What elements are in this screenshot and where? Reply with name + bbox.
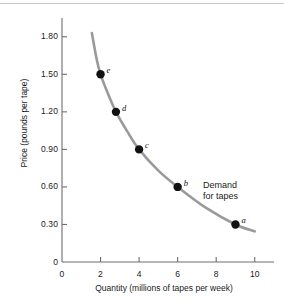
y-tick-label: 1.80 (14, 31, 58, 41)
x-tick-label: 8 (201, 269, 231, 279)
y-ticks-group (62, 37, 67, 225)
data-point-marker (231, 220, 239, 228)
data-point-label-b: b (184, 178, 188, 188)
demand-curve-label: Demand for tapes (203, 180, 238, 202)
demand-curve-figure: 00.300.600.901.201.501.80 0246810 abcde … (0, 0, 284, 301)
data-point-marker (135, 145, 143, 153)
data-point-marker (112, 108, 120, 116)
data-points-group (96, 70, 239, 229)
x-tick-label: 10 (240, 269, 270, 279)
data-point-label-d: d (122, 103, 126, 113)
demand-curve-label-line1: Demand (203, 180, 238, 191)
y-tick-label: 0 (14, 257, 58, 267)
x-tick-label: 0 (47, 269, 77, 279)
x-axis-title: Quantity (millions of tapes per week) (48, 283, 280, 293)
x-tick-label: 4 (124, 269, 154, 279)
data-point-label-a: a (241, 215, 245, 225)
data-point-marker (173, 183, 181, 191)
data-point-marker (96, 70, 104, 78)
demand-curve-label-line2: for tapes (203, 191, 238, 202)
data-point-label-c: c (145, 140, 149, 150)
x-tick-label: 6 (163, 269, 193, 279)
y-tick-label: 0.30 (14, 219, 58, 229)
y-axis-title: Price (pounds per tape) (19, 53, 29, 193)
data-point-label-e: e (107, 65, 111, 75)
x-tick-label: 2 (86, 269, 116, 279)
x-ticks-group (101, 257, 255, 262)
